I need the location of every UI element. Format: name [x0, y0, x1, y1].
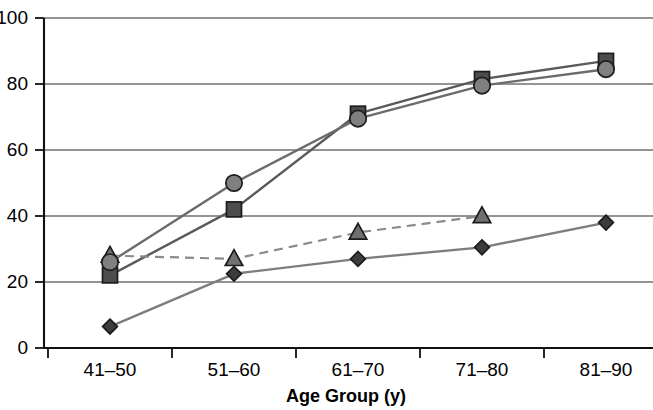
datapoint-diamond-4: [599, 215, 614, 230]
datapoint-circle-4: [598, 61, 614, 77]
y-tick-label-60: 60: [7, 139, 28, 160]
datapoint-circle-2: [350, 110, 366, 126]
datapoint-circle-1: [226, 175, 242, 191]
datapoint-diamond-0: [103, 319, 118, 334]
datapoint-triangle-3: [473, 207, 490, 223]
line-chart: 020406080100 41–5051–6061–7071–8081–90 A…: [0, 0, 653, 410]
y-tick-label-0: 0: [17, 337, 28, 358]
y-tick-label-40: 40: [7, 205, 28, 226]
datapoint-circle-0: [102, 254, 118, 270]
x-tick-label-3: 71–80: [456, 359, 509, 380]
series-line-square: [110, 61, 606, 276]
datapoint-diamond-2: [351, 252, 366, 267]
series-lines-group: [110, 61, 606, 327]
chart-canvas: 020406080100 41–5051–6061–7071–8081–90 A…: [0, 0, 653, 410]
y-axis-tick-labels: 020406080100: [0, 7, 28, 358]
y-tick-label-80: 80: [7, 73, 28, 94]
x-tick-label-0: 41–50: [84, 359, 137, 380]
x-tick-label-4: 81–90: [580, 359, 633, 380]
datapoint-diamond-3: [475, 240, 490, 255]
datapoint-square-1: [227, 202, 242, 217]
x-tick-label-2: 61–70: [332, 359, 385, 380]
datapoint-triangle-1: [225, 250, 242, 266]
datapoint-circle-3: [474, 77, 490, 93]
series-markers-group: [101, 53, 614, 334]
gridlines-group: [44, 18, 653, 282]
x-axis-title: Age Group (y): [286, 386, 406, 406]
y-tick-label-20: 20: [7, 271, 28, 292]
x-tick-label-1: 51–60: [208, 359, 261, 380]
x-axis-tickmarks: [48, 348, 544, 358]
x-axis-tick-labels: 41–5051–6061–7071–8081–90: [84, 359, 633, 380]
y-tick-label-100: 100: [0, 7, 28, 28]
datapoint-diamond-1: [227, 266, 242, 281]
